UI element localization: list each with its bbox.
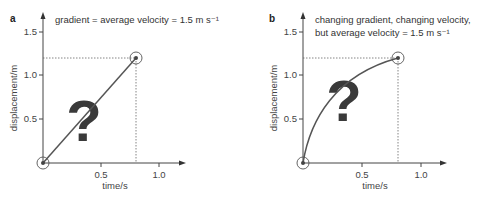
svg-text:?: ?	[326, 68, 361, 133]
x-tick-label: 0.5	[94, 169, 107, 180]
panel-label: a	[10, 13, 16, 24]
chart-b: ? 0.5 1.0 1.5 0.5 1.0 time/s displacemen…	[240, 0, 483, 206]
x-axis-arrow-icon	[440, 161, 447, 166]
annotation-text-line-2: but average velocity = 1.5 m s⁻¹	[315, 27, 450, 38]
x-tick-label: 1.0	[414, 169, 427, 180]
y-axis-label: displacement/m	[268, 65, 279, 132]
figure-b: ? 0.5 1.0 1.5 0.5 1.0 time/s displacemen…	[240, 0, 483, 206]
y-tick-label: 1.0	[24, 69, 37, 80]
y-axis-label: displacement/m	[8, 65, 19, 132]
y-tick-label: 0.5	[284, 113, 297, 124]
question-mark-icon: ?	[66, 88, 101, 153]
y-axis-arrow-icon	[41, 12, 46, 19]
panel-label: b	[269, 13, 275, 24]
y-tick-label: 1.5	[284, 26, 297, 37]
svg-text:?: ?	[66, 88, 101, 153]
annotation-text: gradient = average velocity = 1.5 m s⁻¹	[55, 14, 219, 25]
x-tick-label: 1.0	[152, 169, 165, 180]
x-axis-arrow-icon	[179, 161, 186, 166]
figure-a: ? 0.5 1.0 1.5 0.5 1.0 time/s displacemen…	[0, 0, 240, 206]
y-axis-arrow-icon	[301, 12, 306, 19]
y-tick-label: 0.5	[24, 113, 37, 124]
chart-a: ? 0.5 1.0 1.5 0.5 1.0 time/s displacemen…	[0, 0, 240, 206]
x-axis-label: time/s	[102, 180, 128, 191]
y-tick-label: 1.0	[284, 69, 297, 80]
x-axis-label: time/s	[362, 180, 388, 191]
annotation-text-line-1: changing gradient, changing velocity,	[315, 14, 471, 25]
y-tick-label: 1.5	[24, 26, 37, 37]
question-mark-icon: ?	[326, 68, 361, 133]
x-tick-label: 0.5	[355, 169, 368, 180]
